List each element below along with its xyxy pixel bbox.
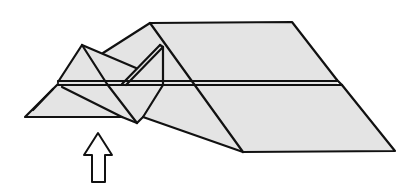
up-arrow-icon	[0, 0, 408, 196]
origami-diagram	[0, 0, 408, 196]
